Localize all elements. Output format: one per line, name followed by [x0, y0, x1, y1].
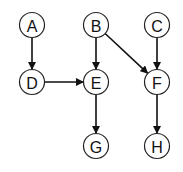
node-h: H	[145, 134, 170, 159]
node-label: F	[152, 75, 162, 92]
node-label: A	[27, 18, 38, 35]
node-e: E	[84, 70, 109, 95]
node-g: G	[84, 134, 109, 159]
node-label: B	[91, 18, 102, 35]
directed-graph: ABCDEFGH	[0, 0, 183, 172]
node-d: D	[20, 70, 45, 95]
node-label: E	[91, 75, 102, 92]
nodes-layer: ABCDEFGH	[20, 13, 170, 159]
node-b: B	[84, 13, 109, 38]
edge-b-to-f	[105, 34, 147, 74]
node-label: D	[26, 75, 38, 92]
node-label: C	[151, 18, 163, 35]
node-f: F	[145, 70, 170, 95]
node-label: G	[90, 139, 102, 156]
node-a: A	[20, 13, 45, 38]
node-c: C	[145, 13, 170, 38]
node-label: H	[151, 139, 163, 156]
